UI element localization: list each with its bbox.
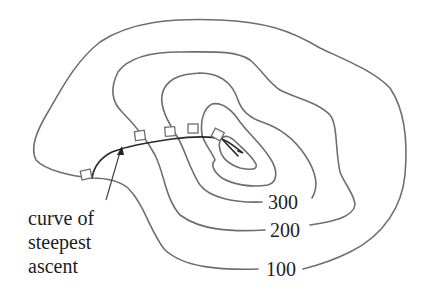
annotation-arrow-line xyxy=(106,152,120,200)
right-angle-marker-3 xyxy=(165,127,176,137)
annotation-caption: curve of steepest ascent xyxy=(28,206,94,278)
caption-line-2: steepest xyxy=(28,230,94,254)
right-angle-marker-4 xyxy=(188,124,198,133)
contour-label-100: 100 xyxy=(266,258,296,280)
contour-label-200: 200 xyxy=(270,219,300,241)
right-angle-marker-1 xyxy=(80,169,92,180)
caption-line-1: curve of xyxy=(28,206,94,230)
right-angle-marker-2 xyxy=(134,130,145,140)
caption-line-3: ascent xyxy=(28,254,94,278)
contour-label-300: 300 xyxy=(268,191,298,213)
contour-200 xyxy=(113,52,355,231)
